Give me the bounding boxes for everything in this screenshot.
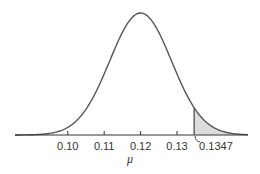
x-tick-label: 0.13	[166, 140, 187, 152]
x-tick-label: 0.10	[57, 140, 78, 152]
x-tick-label: 0.11	[94, 140, 115, 152]
x-tick-label: 0.12	[130, 140, 151, 152]
normal-distribution-chart: 0.100.110.120.13 0.1347 μ	[0, 0, 260, 174]
x-axis-ticks: 0.100.110.120.13	[57, 131, 188, 152]
x-axis-label: μ	[126, 152, 133, 166]
critical-value-label: 0.1347	[199, 140, 233, 152]
normal-curve	[15, 13, 248, 135]
